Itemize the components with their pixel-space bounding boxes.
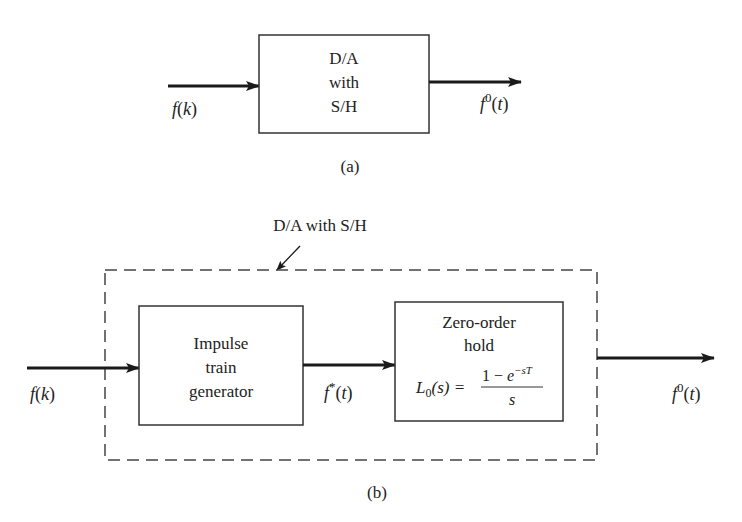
figure-b: D/A with S/H f(k) Impulse train generato…: [27, 216, 714, 502]
output-label-a: f0(t): [480, 90, 509, 115]
group-label: D/A with S/H: [273, 216, 367, 235]
caption-a: (a): [341, 157, 360, 176]
caption-b: (b): [367, 483, 387, 502]
zoh-block-line2: hold: [464, 336, 495, 355]
formula-lhs: L0(s) =: [415, 378, 465, 400]
zoh-transfer-function: L0(s) = 1 − e−sT s: [415, 364, 543, 408]
zoh-block-line1: Zero-order: [442, 313, 516, 332]
impulse-block-line3: generator: [189, 382, 254, 401]
formula-denominator: s: [509, 391, 515, 408]
block-diagram: D/A with S/H f(k) f0(t) (a) D/A with S/H…: [0, 0, 742, 522]
intermediate-label: f*(t): [324, 379, 353, 404]
group-leader-arrow: [277, 246, 300, 270]
da-block-line1: D/A: [329, 49, 359, 68]
da-block-line3: S/H: [331, 97, 357, 116]
output-label-b: f0(t): [672, 380, 701, 405]
da-block-line2: with: [329, 73, 360, 92]
input-label-b: f(k): [30, 384, 55, 405]
input-label-a: f(k): [172, 99, 197, 120]
figure-a: D/A with S/H f(k) f0(t) (a): [168, 35, 521, 176]
impulse-block-line1: Impulse: [194, 334, 249, 353]
impulse-block-line2: train: [205, 358, 237, 377]
formula-numerator: 1 − e−sT: [482, 364, 533, 384]
